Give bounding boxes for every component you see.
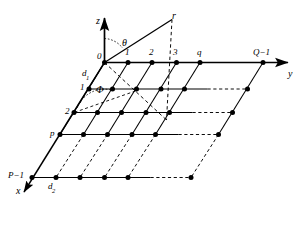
array-node [110,87,115,92]
array-node [245,87,250,92]
grid-column-label-3: 3 [173,48,178,57]
grid-col-line-3 [132,63,177,135]
array-node [198,60,203,65]
array-node [261,60,266,65]
grid-row-label-P-1: P−1 [8,171,24,180]
array-node [182,87,187,92]
array-node [102,175,107,180]
grid-row-label-1: 1 [80,83,85,92]
array-node [189,175,194,180]
grid-col-line-q [156,63,201,135]
ray-label-r: r [172,11,176,21]
axis-label-y: y [288,69,292,79]
array-node [134,87,139,92]
array-grid [32,63,263,178]
theta-arc [105,39,123,49]
array-node [126,60,131,65]
array-node [72,110,77,115]
array-node [119,110,124,115]
spacing-label-d2: d2 [48,182,56,193]
array-node [130,132,135,137]
grid-col-dash-Q-1 [191,135,219,178]
grid-col-line-1 [84,63,129,135]
array-node [54,175,59,180]
figure-container: z y x r θ Φ 0 1 2 3 q Q−1 1 2 p P−1 d1 d… [0,0,304,231]
grid-column-label-0: 0 [97,52,102,61]
array-node [87,87,92,92]
array-node [144,110,149,115]
array-node [102,60,107,65]
grid-row-label-p: p [50,129,55,138]
ray-r-vertical-dashed [167,20,173,121]
grid-column-lines [60,63,263,135]
array-node [216,132,221,137]
grid-column-label-2: 2 [149,48,154,57]
grid-row-label-2: 2 [65,107,70,116]
array-node [167,110,172,115]
axis-label-x: x [16,186,20,196]
grid-column-lines-dashed [56,135,219,178]
figure-caption [0,225,304,231]
array-node [95,110,100,115]
array-geometry-diagram [0,0,304,231]
array-node [159,87,164,92]
grid-column-label-Q-1: Q−1 [253,48,270,57]
axis-label-z: z [96,16,100,26]
grid-col-line-Q-1 [219,63,264,135]
grid-row-lines-dashed [179,63,264,135]
array-node [150,60,155,65]
phi-chord-dashed [74,91,136,113]
grid-column-label-q: q [197,48,202,57]
spacing-label-d1: d1 [82,69,90,80]
array-node [81,132,86,137]
array-node [174,60,179,65]
angle-label-phi: Φ [96,85,104,95]
array-element-nodes [30,60,266,180]
grid-col-dash-2 [80,135,108,178]
array-node [30,175,35,180]
grid-col-dash-1 [56,135,84,178]
array-node [126,175,131,180]
array-node [230,110,235,115]
grid-row-lines [32,63,223,178]
spacing-d2-subscript: 2 [52,187,55,194]
grid-column-label-1: 1 [125,48,130,57]
array-node [58,132,63,137]
spacing-d1-subscript: 1 [86,74,89,81]
grid-col-dash-3 [105,135,133,178]
array-node [105,132,110,137]
grid-col-dash-q [128,135,156,178]
array-node [153,132,158,137]
array-node [78,175,83,180]
